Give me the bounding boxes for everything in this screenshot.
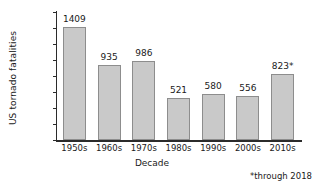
x-axis-tick-label: 2010s — [259, 144, 307, 153]
bar-value-label: 823* — [259, 62, 307, 71]
bar-value-label: 556 — [224, 84, 272, 93]
bar — [271, 74, 294, 140]
bar-value-label: 1409 — [50, 15, 98, 24]
y-axis-tick — [53, 60, 57, 61]
bar-chart: US tornado fatalities 02004006008001,000… — [0, 0, 320, 191]
bar — [98, 65, 121, 140]
bar — [167, 98, 190, 140]
bar — [202, 94, 225, 140]
bar — [236, 96, 259, 140]
y-axis-tick — [53, 140, 57, 141]
bar-value-label: 986 — [120, 49, 168, 58]
y-axis-title: US tornado fatalities — [8, 18, 18, 138]
y-axis-tick — [53, 28, 57, 29]
x-axis-title: Decade — [57, 158, 247, 168]
footnote: *through 2018 — [250, 171, 312, 181]
bar — [132, 61, 155, 140]
y-axis-tick — [53, 92, 57, 93]
plot-area: 02004006008001,0001,2001,4001,6001409935… — [57, 12, 300, 140]
x-axis-line — [56, 140, 302, 142]
y-axis-tick — [53, 108, 57, 109]
y-axis-tick — [53, 44, 57, 45]
y-axis-tick — [53, 124, 57, 125]
bar — [63, 27, 86, 140]
y-axis-tick — [53, 76, 57, 77]
y-axis-tick — [53, 12, 57, 13]
